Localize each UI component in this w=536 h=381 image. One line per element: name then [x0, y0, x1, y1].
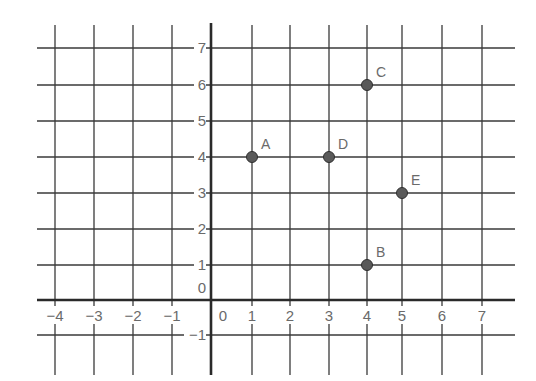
x-tick-label: −2: [124, 307, 141, 324]
data-points: ABCDE: [247, 64, 421, 271]
point-marker: [362, 80, 373, 91]
point-marker: [397, 188, 408, 199]
y-tick-label: −1: [189, 326, 206, 343]
x-tick-label: 0: [219, 307, 227, 324]
x-tick-label: 6: [438, 307, 446, 324]
y-tick-label: 0: [198, 279, 206, 296]
x-tick-label: 1: [248, 307, 256, 324]
x-tick-label: −3: [85, 307, 102, 324]
point-marker: [247, 152, 258, 163]
point-label: C: [376, 64, 386, 80]
y-tick-label: 5: [198, 112, 206, 129]
point-label: E: [411, 172, 420, 188]
x-tick-label: 4: [363, 307, 371, 324]
point-label: D: [338, 136, 348, 152]
x-tick-label: −4: [46, 307, 63, 324]
y-tick-label: 7: [198, 39, 206, 56]
y-tick-label: 2: [198, 220, 206, 237]
point-label: A: [261, 136, 271, 152]
y-tick-label: 6: [198, 76, 206, 93]
y-tick-label: 4: [198, 148, 206, 165]
point-b: B: [362, 244, 386, 271]
point-marker: [362, 260, 373, 271]
point-e: E: [397, 172, 421, 199]
y-tick-label: 1: [198, 256, 206, 273]
x-tick-label: 7: [478, 307, 486, 324]
point-a: A: [247, 136, 272, 163]
point-marker: [324, 152, 335, 163]
coordinate-plane: −4−3−2−101234567−101234567 ABCDE: [0, 0, 536, 381]
x-tick-label: 5: [398, 307, 406, 324]
point-c: C: [362, 64, 387, 91]
x-tick-label: −1: [163, 307, 180, 324]
x-tick-label: 2: [286, 307, 294, 324]
point-label: B: [376, 244, 385, 260]
point-d: D: [324, 136, 349, 163]
y-tick-label: 3: [198, 184, 206, 201]
x-tick-label: 3: [325, 307, 333, 324]
